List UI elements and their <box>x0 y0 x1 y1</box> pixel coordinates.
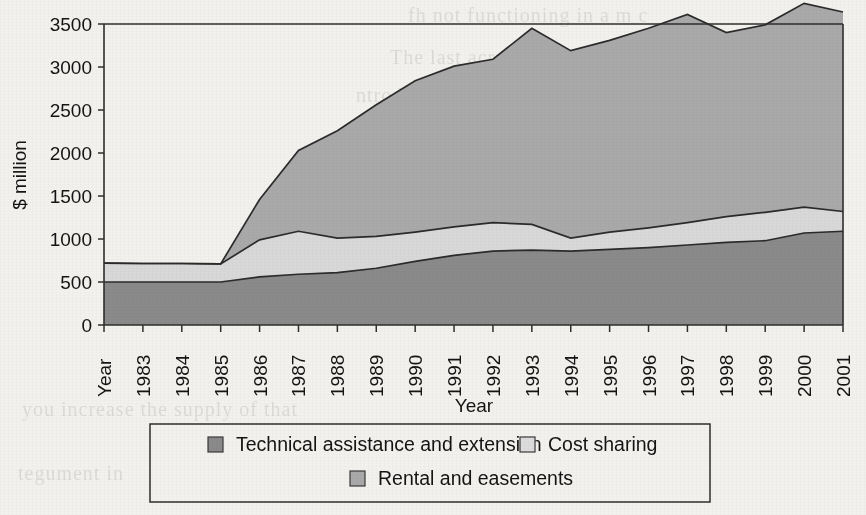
y-tick-label-0: 0 <box>81 315 92 336</box>
legend-label-1: Cost sharing <box>548 433 657 455</box>
x-axis-ticks: Year198319841985198619871988198919901991… <box>94 325 854 397</box>
x-tick-label-1992: 1992 <box>483 355 504 397</box>
x-tick-label-Year: Year <box>94 358 115 397</box>
chart-canvas: 0500100015002000250030003500 Year1983198… <box>0 0 866 515</box>
x-tick-label-1996: 1996 <box>639 355 660 397</box>
x-tick-label-1998: 1998 <box>716 355 737 397</box>
y-tick-label-1500: 1500 <box>50 186 92 207</box>
x-tick-label-1990: 1990 <box>405 355 426 397</box>
x-tick-label-1985: 1985 <box>211 355 232 397</box>
y-axis-ticks: 0500100015002000250030003500 <box>50 14 104 336</box>
x-tick-label-1991: 1991 <box>444 355 465 397</box>
x-tick-label-1997: 1997 <box>677 355 698 397</box>
stacked-area-chart-figure: 0500100015002000250030003500 Year1983198… <box>0 0 866 515</box>
y-tick-label-1000: 1000 <box>50 229 92 250</box>
legend-label-0: Technical assistance and extension <box>236 433 542 455</box>
legend-label-2: Rental and easements <box>378 467 573 489</box>
legend-swatch-1 <box>520 437 535 452</box>
x-tick-label-1989: 1989 <box>366 355 387 397</box>
y-tick-label-3500: 3500 <box>50 14 92 35</box>
x-axis-title: Year <box>455 395 494 416</box>
y-tick-label-3000: 3000 <box>50 57 92 78</box>
y-tick-label-2000: 2000 <box>50 143 92 164</box>
chart-legend: Technical assistance and extensionCost s… <box>150 424 710 502</box>
x-tick-label-1994: 1994 <box>561 354 582 397</box>
x-tick-label-1983: 1983 <box>133 355 154 397</box>
x-tick-label-2000: 2000 <box>794 355 815 397</box>
x-tick-label-2001: 2001 <box>833 355 854 397</box>
chart-areas <box>104 3 843 325</box>
x-tick-label-1995: 1995 <box>600 355 621 397</box>
x-tick-label-1987: 1987 <box>288 355 309 397</box>
legend-swatch-2 <box>350 471 365 486</box>
y-tick-label-2500: 2500 <box>50 100 92 121</box>
y-axis-title: $ million <box>9 140 30 210</box>
x-tick-label-1988: 1988 <box>327 355 348 397</box>
x-tick-label-1984: 1984 <box>172 354 193 397</box>
x-tick-label-1999: 1999 <box>755 355 776 397</box>
x-tick-label-1993: 1993 <box>522 355 543 397</box>
x-tick-label-1986: 1986 <box>250 355 271 397</box>
y-tick-label-500: 500 <box>60 272 92 293</box>
legend-swatch-0 <box>208 437 223 452</box>
